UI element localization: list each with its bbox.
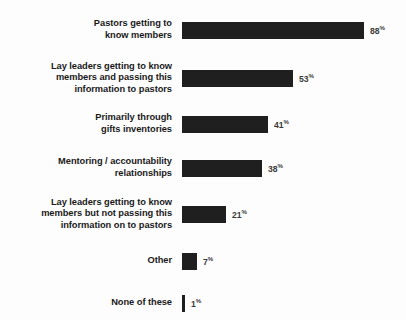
bar <box>182 160 262 177</box>
bar-value-number: 41 <box>274 120 284 130</box>
bar <box>182 70 293 87</box>
bar-value: 41% <box>274 119 289 129</box>
bar-zone: 38% <box>172 148 406 188</box>
bar-zone: 21% <box>172 190 406 238</box>
percent-symbol: % <box>196 297 201 304</box>
bar-zone: 88% <box>172 8 406 52</box>
bar-value-number: 21 <box>232 210 242 220</box>
bar-value-number: 53 <box>299 74 309 84</box>
category-label: Primarily through gifts inventories <box>0 112 172 135</box>
horizontal-bar-chart: Pastors getting to know members 88% Lay … <box>0 0 406 320</box>
chart-row: None of these 1% <box>0 289 406 317</box>
percent-symbol: % <box>208 255 213 262</box>
bar <box>182 253 197 270</box>
category-label: None of these <box>0 297 172 309</box>
bar <box>182 22 364 39</box>
bar-value: 53% <box>299 73 314 83</box>
bar-zone: 41% <box>172 104 406 144</box>
category-label: Lay leaders getting to know members but … <box>0 197 172 232</box>
chart-row: Pastors getting to know members 88% <box>0 8 406 52</box>
chart-row: Mentoring / accountability relationships… <box>0 148 406 188</box>
bar <box>182 295 185 312</box>
percent-symbol: % <box>309 72 314 79</box>
bar-value: 88% <box>370 25 385 35</box>
percent-symbol: % <box>380 24 385 31</box>
percent-symbol: % <box>284 118 289 125</box>
chart-row: Primarily through gifts inventories 41% <box>0 104 406 144</box>
bar-zone: 7% <box>172 247 406 275</box>
bar-value: 21% <box>232 209 247 219</box>
bar-value: 7% <box>203 256 213 266</box>
bar-value-number: 88 <box>370 26 380 36</box>
category-label: Pastors getting to know members <box>0 18 172 41</box>
bar-zone: 1% <box>172 289 406 317</box>
chart-row: Lay leaders getting to know members but … <box>0 190 406 238</box>
bar-value-number: 38 <box>268 164 278 174</box>
percent-symbol: % <box>242 208 247 215</box>
percent-symbol: % <box>278 162 283 169</box>
bar-zone: 53% <box>172 54 406 102</box>
chart-row: Other 7% <box>0 247 406 275</box>
bar <box>182 206 226 223</box>
bar-value: 38% <box>268 163 283 173</box>
category-label: Mentoring / accountability relationships <box>0 156 172 179</box>
chart-row: Lay leaders getting to know members and … <box>0 54 406 102</box>
bar-value: 1% <box>191 298 201 308</box>
category-label: Other <box>0 255 172 267</box>
bar <box>182 116 268 133</box>
category-label: Lay leaders getting to know members and … <box>0 61 172 96</box>
